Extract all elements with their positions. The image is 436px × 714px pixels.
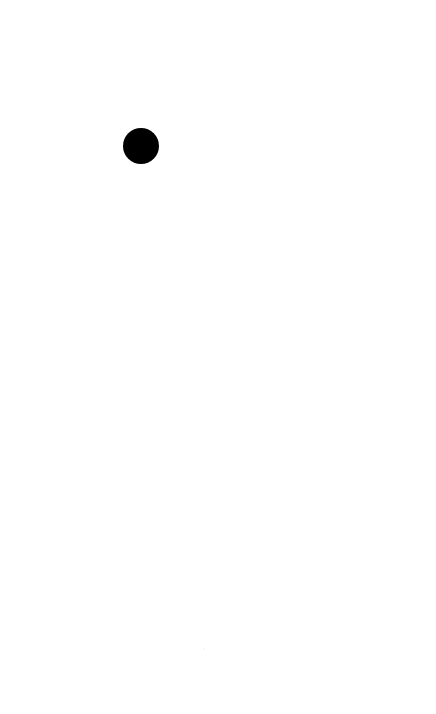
blank-canvas [0, 0, 436, 714]
black-dot-icon [123, 128, 159, 164]
faint-speck [203, 648, 205, 650]
